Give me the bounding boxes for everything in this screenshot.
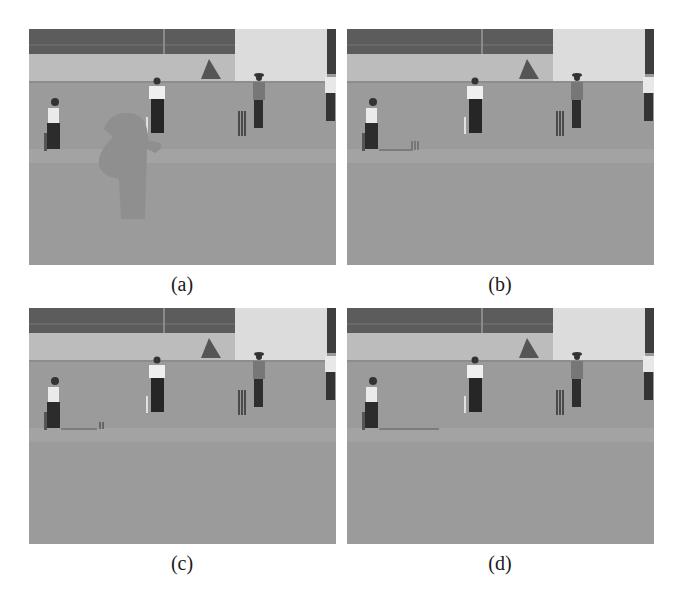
panel-b-image — [347, 29, 654, 265]
caption-c: (c) — [142, 552, 222, 574]
caption-d: (d) — [460, 552, 540, 574]
panel-d-image — [347, 308, 654, 544]
caption-b: (b) — [460, 273, 540, 295]
caption-a: (a) — [142, 273, 222, 295]
figure: (a) — [0, 0, 680, 603]
panel-a-image — [29, 29, 336, 265]
panel-c-image — [29, 308, 336, 544]
